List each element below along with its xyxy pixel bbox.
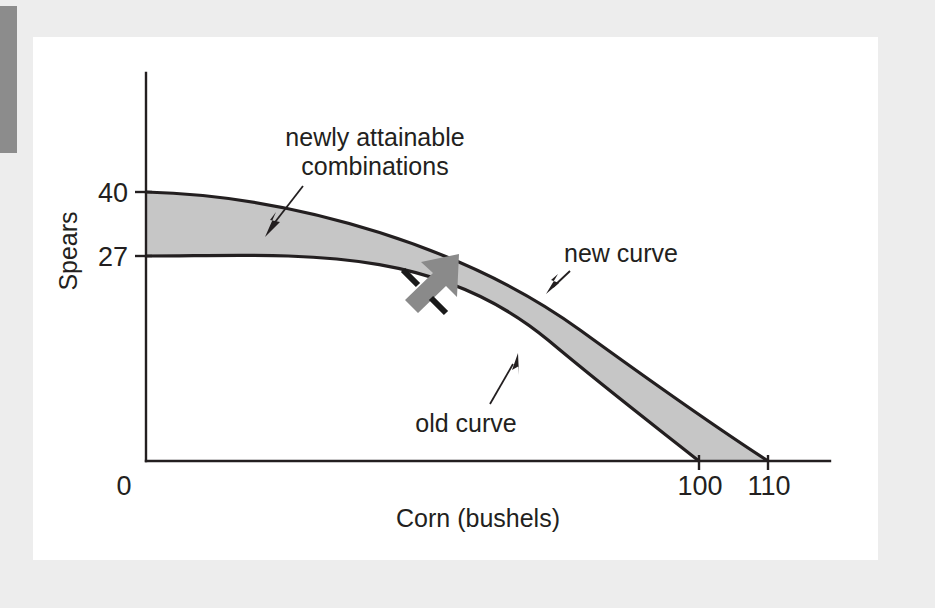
y-tick-label-27: 27 bbox=[98, 242, 128, 272]
figure-page: 40 27 0 100 110 Corn (bushels) Spears ne… bbox=[0, 0, 935, 608]
x-tick-label-110: 110 bbox=[747, 471, 790, 501]
x-tick-label-100: 100 bbox=[677, 471, 722, 501]
old-curve-arrow-head bbox=[512, 353, 519, 375]
y-axis-title: Spears bbox=[54, 211, 82, 290]
shift-arrow-dash-lower bbox=[431, 298, 446, 313]
y-tick-label-40: 40 bbox=[98, 178, 128, 208]
new-curve-arrow-head bbox=[546, 274, 559, 294]
x-axis-title: Corn (bushels) bbox=[396, 504, 560, 532]
x-tick-label-0: 0 bbox=[116, 471, 131, 501]
new-curve-label: new curve bbox=[564, 239, 678, 267]
newly-attainable-label-line1: newly attainable bbox=[285, 123, 464, 151]
ppf-chart: 40 27 0 100 110 Corn (bushels) Spears ne… bbox=[0, 0, 935, 608]
old-curve-label: old curve bbox=[415, 409, 516, 437]
old-curve-leader-line bbox=[490, 364, 513, 404]
newly-attainable-label-line2: combinations bbox=[301, 152, 448, 180]
